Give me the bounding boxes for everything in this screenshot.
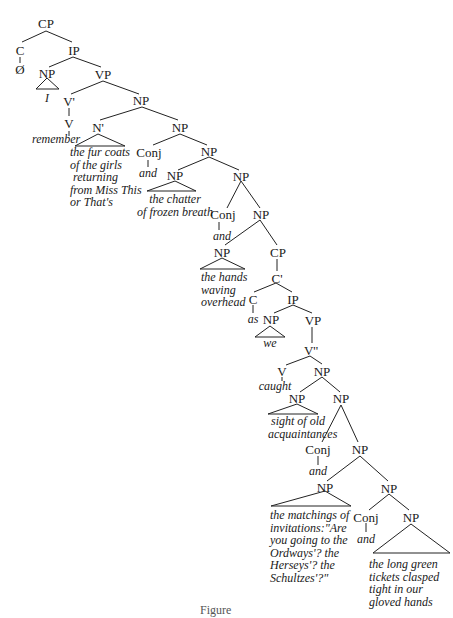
- node-cp-adjunct: CP: [270, 246, 286, 259]
- node-np-subject: NP: [39, 67, 56, 80]
- node-np-matchings: NP: [317, 481, 334, 494]
- word-caught: caught: [259, 380, 292, 393]
- phrase-matchings: the matchings of invitations:"Are you go…: [270, 509, 349, 584]
- node-v-main: V: [64, 117, 73, 130]
- word-and-2: and: [213, 230, 231, 243]
- node-np-coord6: NP: [352, 443, 369, 456]
- node-c-root: C: [16, 44, 25, 57]
- phrase-chatter: the chatter of frozen breath: [137, 193, 213, 218]
- node-cp-root: CP: [38, 17, 54, 30]
- phrase-sight: sight of old acquaintances: [268, 415, 337, 440]
- word-remember: remember: [32, 133, 80, 146]
- node-np-coord1: NP: [172, 121, 189, 134]
- node-np-object: NP: [133, 94, 150, 107]
- node-conj3: Conj: [305, 443, 330, 456]
- node-np-coord5: NP: [333, 392, 350, 405]
- word-we: we: [263, 337, 276, 350]
- word-and-3: and: [309, 465, 327, 478]
- node-vbar-adjunct: V'': [304, 344, 318, 357]
- node-np-sight: NP: [289, 392, 306, 405]
- node-cbar: C': [271, 272, 282, 285]
- word-and-4: and: [357, 533, 375, 546]
- node-vp-main: VP: [95, 68, 112, 81]
- word-as: as: [248, 313, 259, 326]
- node-np-coord2: NP: [201, 145, 218, 158]
- node-vp-adjunct: VP: [305, 314, 322, 327]
- phrase-tickets: the long green tickets clasped tight in …: [369, 558, 439, 608]
- node-ip-root: IP: [68, 44, 80, 57]
- node-np-coord3: NP: [233, 170, 250, 183]
- word-i: I: [45, 92, 49, 105]
- node-v-adjunct: V: [277, 365, 286, 378]
- node-np-hands: NP: [214, 246, 231, 259]
- node-ip-adjunct: IP: [287, 293, 299, 306]
- node-conj1: Conj: [136, 146, 161, 159]
- node-c-adjunct: C: [249, 293, 258, 306]
- phrase-fur-coats: the fur coats of the girls returning fro…: [70, 146, 142, 209]
- node-np-coord4: NP: [253, 208, 270, 221]
- figure-caption: Figure: [200, 603, 231, 618]
- node-conj2: Conj: [210, 208, 235, 221]
- node-nbar: N': [92, 121, 104, 134]
- node-np-we: NP: [263, 313, 280, 326]
- node-np-coord7: NP: [381, 482, 398, 495]
- node-null-complementizer: Ø: [15, 63, 24, 76]
- node-np-obj2: NP: [314, 365, 331, 378]
- phrase-hands: the hands waving overhead: [201, 271, 247, 309]
- node-np-chatter: NP: [167, 169, 184, 182]
- node-conj4: Conj: [353, 511, 378, 524]
- node-np-tickets: NP: [403, 511, 420, 524]
- word-and-1: and: [139, 167, 157, 180]
- node-vbar-main: V': [63, 95, 75, 108]
